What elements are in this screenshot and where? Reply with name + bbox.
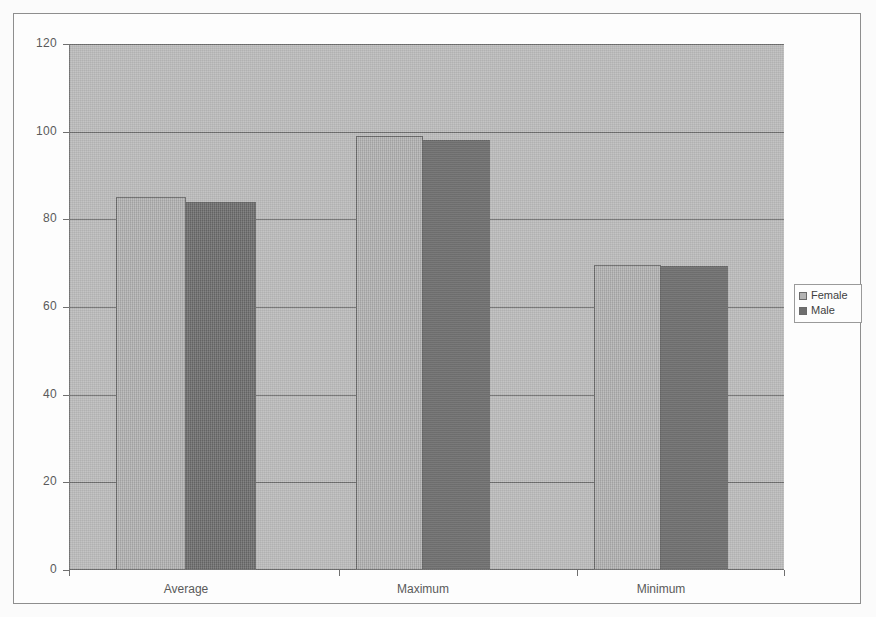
y-axis-tick-label: 100 <box>14 124 57 138</box>
gridline-120 <box>69 44 784 45</box>
chart-legend[interactable]: Female Male <box>794 284 862 323</box>
plot-area <box>69 44 784 570</box>
x-axis-tick-mark <box>339 570 340 576</box>
chart-frame: 120100806040200 AverageMaximumMinimum Fe… <box>13 13 861 604</box>
y-axis-tick-label: 60 <box>14 299 57 313</box>
bar-maximum-female[interactable] <box>356 136 423 570</box>
x-axis-category-label: Maximum <box>363 582 483 596</box>
gridline-100 <box>69 132 784 133</box>
legend-item-male[interactable]: Male <box>799 303 857 318</box>
x-axis-category-label: Minimum <box>601 582 721 596</box>
bar-maximum-male[interactable] <box>423 140 490 570</box>
legend-label-female: Female <box>811 290 848 301</box>
y-axis-tick-label: 40 <box>14 387 57 401</box>
x-axis-tick-mark <box>69 570 70 576</box>
bar-minimum-female[interactable] <box>594 265 661 570</box>
legend-label-male: Male <box>811 305 835 316</box>
x-axis-tick-mark <box>784 570 785 576</box>
y-axis-tick-label: 0 <box>14 562 57 576</box>
bar-average-male[interactable] <box>186 202 256 570</box>
y-axis-tick-label: 120 <box>14 36 57 50</box>
bar-minimum-male[interactable] <box>661 266 728 570</box>
legend-swatch-female-icon <box>799 292 807 300</box>
y-axis-tick-label: 80 <box>14 211 57 225</box>
legend-swatch-male-icon <box>799 307 807 315</box>
bar-average-female[interactable] <box>116 197 186 570</box>
y-axis-line <box>69 44 70 570</box>
y-axis-tick-label: 20 <box>14 474 57 488</box>
x-axis-category-label: Average <box>126 582 246 596</box>
page-background: 120100806040200 AverageMaximumMinimum Fe… <box>0 0 876 617</box>
legend-item-female[interactable]: Female <box>799 288 857 303</box>
x-axis-tick-mark <box>577 570 578 576</box>
